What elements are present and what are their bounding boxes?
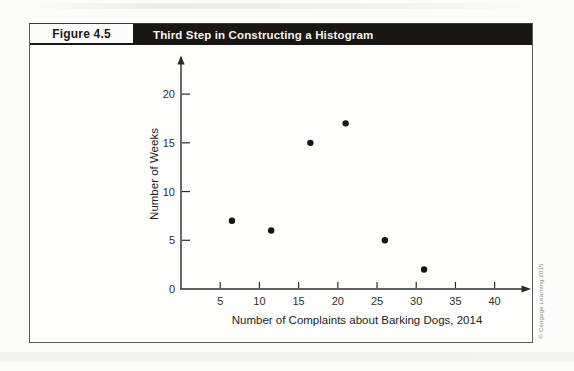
copyright-credit: © Cengage Learning 2015	[538, 263, 544, 338]
y-tick-label: 0	[169, 283, 175, 295]
data-point	[307, 140, 313, 146]
x-tick-label: 15	[292, 295, 304, 307]
x-axis-label: Number of Complaints about Barking Dogs,…	[232, 314, 483, 326]
x-tick-label: 30	[410, 295, 422, 307]
x-tick-label: 20	[332, 295, 344, 307]
y-tick-label: 20	[163, 88, 175, 100]
data-point	[268, 227, 274, 233]
x-tick-label: 5	[217, 295, 223, 307]
y-axis-label: Number of Weeks	[148, 128, 160, 220]
y-tick-label: 15	[163, 137, 175, 149]
data-point	[421, 266, 427, 272]
y-tick-label: 5	[169, 234, 175, 246]
x-axis-arrow-icon	[522, 285, 532, 292]
x-tick-label: 40	[489, 295, 501, 307]
data-point	[229, 218, 235, 224]
data-point	[382, 237, 388, 243]
x-tick-label: 25	[371, 295, 383, 307]
x-tick-label: 35	[449, 295, 461, 307]
data-point	[342, 120, 348, 126]
y-tick-label: 10	[163, 186, 175, 198]
x-tick-label: 10	[253, 295, 265, 307]
y-axis-arrow-icon	[177, 56, 184, 65]
